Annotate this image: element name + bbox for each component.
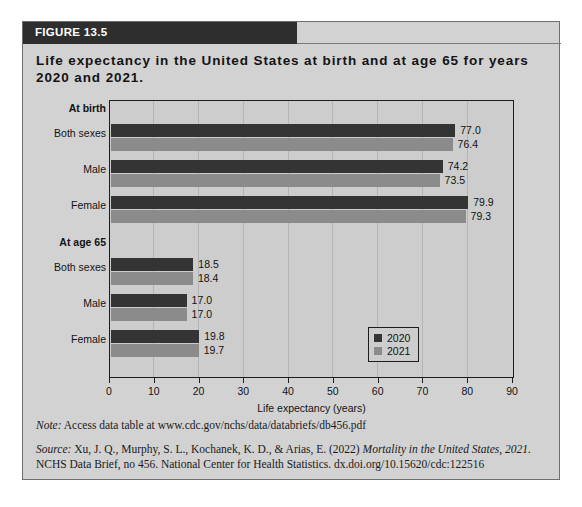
legend-label: 2021 xyxy=(387,345,410,357)
bars-layer: 77.076.474.273.579.979.318.518.417.017.0… xyxy=(111,100,514,378)
x-axis-tick-label: 70 xyxy=(402,385,442,397)
bar-value-label: 19.8 xyxy=(204,330,224,343)
bar-value-label: 74.2 xyxy=(448,160,468,173)
bar-value-label: 77.0 xyxy=(460,124,480,137)
source-text-2: NCHS Data Brief, no 456. National Center… xyxy=(36,458,484,470)
chart-legend: 20202021 xyxy=(368,327,419,362)
bar-2021 xyxy=(111,210,466,223)
bar-value-label: 18.4 xyxy=(198,272,218,285)
category-label: Female xyxy=(0,333,106,345)
figure-header-band: FIGURE 13.5 xyxy=(23,22,297,44)
x-axis-tick xyxy=(467,378,468,383)
bar-value-label: 17.0 xyxy=(192,308,212,321)
bar-2021 xyxy=(111,174,440,187)
bar-value-label: 79.3 xyxy=(471,210,491,223)
note-prefix: Note: xyxy=(36,419,62,431)
bar-value-label: 79.9 xyxy=(473,196,493,209)
note-text: Access data table at www.cdc.gov/nchs/da… xyxy=(62,419,367,431)
bar-2020 xyxy=(111,258,194,271)
group-label: At age 65 xyxy=(0,236,106,248)
bar-2021 xyxy=(111,138,453,151)
bar-2020 xyxy=(111,160,443,173)
x-axis-tick xyxy=(333,378,334,383)
group-label: At birth xyxy=(0,102,106,114)
figure-title: Life expectancy in the United States at … xyxy=(36,52,548,86)
bar-2020 xyxy=(111,124,456,137)
x-axis-tick-label: 20 xyxy=(179,385,219,397)
x-axis-tick-label: 80 xyxy=(447,385,487,397)
chart-region: 77.076.474.273.579.979.318.518.417.017.0… xyxy=(23,96,561,426)
category-label: Both sexes xyxy=(0,127,106,139)
category-label: Male xyxy=(0,163,106,175)
legend-swatch-icon xyxy=(374,347,382,355)
x-axis-tick-label: 90 xyxy=(492,385,532,397)
x-axis-tick xyxy=(199,378,200,383)
x-axis-title: Life expectancy (years) xyxy=(109,402,514,414)
bar-2020 xyxy=(111,294,187,307)
bar-value-label: 76.4 xyxy=(458,138,478,151)
x-axis-tick xyxy=(512,378,513,383)
bar-2020 xyxy=(111,196,469,209)
legend-label: 2020 xyxy=(387,332,410,344)
category-label: Both sexes xyxy=(0,261,106,273)
x-axis-tick xyxy=(378,378,379,383)
x-axis-tick xyxy=(154,378,155,383)
x-axis-tick xyxy=(243,378,244,383)
bar-2021 xyxy=(111,308,187,321)
category-label: Male xyxy=(0,297,106,309)
x-axis-tick-label: 10 xyxy=(134,385,174,397)
x-axis-tick-label: 40 xyxy=(268,385,308,397)
figure-notes: Note: Access data table at www.cdc.gov/n… xyxy=(36,418,548,472)
x-axis-tick xyxy=(288,378,289,383)
source-prefix: Source: xyxy=(36,443,71,455)
x-axis-tick xyxy=(109,378,110,383)
x-axis-tick-label: 0 xyxy=(89,385,129,397)
bar-value-label: 18.5 xyxy=(198,258,218,271)
figure-container: FIGURE 13.5 Life expectancy in the Unite… xyxy=(22,21,560,480)
bar-2021 xyxy=(111,344,199,357)
note-line: Note: Access data table at www.cdc.gov/n… xyxy=(36,418,548,433)
header-divider xyxy=(297,43,561,44)
source-italic-title: Mortality in the United States, 2021. xyxy=(363,443,531,455)
source-line: Source: Xu, J. Q., Murphy, S. L., Kochan… xyxy=(36,442,548,472)
bar-2020 xyxy=(111,330,200,343)
x-axis-tick xyxy=(422,378,423,383)
figure-number-label: FIGURE 13.5 xyxy=(35,26,107,38)
category-label: Female xyxy=(0,199,106,211)
bar-2021 xyxy=(111,272,193,285)
x-axis-tick-label: 50 xyxy=(313,385,353,397)
source-text-1: Xu, J. Q., Murphy, S. L., Kochanek, K. D… xyxy=(71,443,362,455)
legend-entry: 2020 xyxy=(374,331,410,344)
legend-entry: 2021 xyxy=(374,344,410,357)
x-axis-tick-label: 30 xyxy=(223,385,263,397)
x-axis-tick-label: 60 xyxy=(358,385,398,397)
bar-value-label: 17.0 xyxy=(192,294,212,307)
bar-value-label: 73.5 xyxy=(445,174,465,187)
legend-swatch-icon xyxy=(374,334,382,342)
bar-value-label: 19.7 xyxy=(204,344,224,357)
